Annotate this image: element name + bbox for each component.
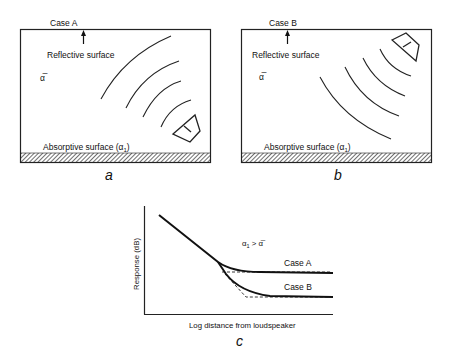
alpha-bar-label-a: α̅ (40, 73, 48, 83)
arrow-up-icon (81, 30, 86, 44)
case-b-curve-label: Case B (284, 282, 312, 292)
x-axis-label: Log distance from loudspeaker (189, 321, 296, 330)
absorptive-floor-hatch-b (242, 153, 431, 163)
y-axis-label: Response (dB) (132, 238, 141, 290)
case-b-curve (218, 262, 333, 297)
panel-a: Case A Reflective surface α̅ Absorptive … (21, 18, 211, 183)
caption-a: a (105, 167, 113, 183)
absorptive-surface-label-a: Absorptive surface (α1) (43, 142, 130, 153)
panel-c-chart: Response (dB) Log distance from loudspea… (132, 206, 333, 349)
condition-label: α1 > α̅ (242, 239, 266, 249)
absorptive-floor-hatch-a (21, 153, 210, 163)
case-b-label: Case B (269, 18, 297, 28)
caption-b: b (334, 167, 342, 183)
caption-c: c (236, 333, 243, 349)
reflective-surface-label-a: Reflective surface (47, 50, 115, 60)
loudspeaker-icon-a (173, 115, 200, 142)
absorptive-surface-label-b: Absorptive surface (α1) (264, 142, 351, 153)
loudspeaker-icon-b (392, 33, 419, 61)
case-a-label: Case A (50, 18, 78, 28)
figure-canvas: Case A Reflective surface α̅ Absorptive … (0, 0, 450, 359)
alpha-bar-label-b: α̅ (259, 72, 267, 82)
panel-b: Case B Reflective surface α̅ Absorptive … (242, 18, 432, 183)
sound-wavefronts-b (320, 49, 411, 139)
case-a-curve-label: Case A (284, 258, 312, 268)
arrow-up-icon (285, 30, 290, 44)
reflective-surface-label-b: Reflective surface (252, 50, 320, 60)
